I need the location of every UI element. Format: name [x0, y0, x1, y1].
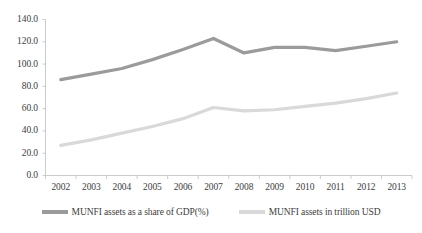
y-axis-tick-label: 0.0	[2, 170, 38, 180]
series-line-1	[61, 93, 397, 145]
y-axis-tick-label: 60.0	[2, 103, 38, 113]
legend-item[interactable]: MUNFI assets in trillion USD	[239, 207, 381, 218]
legend-swatch-icon	[239, 210, 265, 214]
legend-label: MUNFI assets as a share of GDP(%)	[72, 207, 209, 218]
legend-label: MUNFI assets in trillion USD	[269, 207, 381, 218]
y-axis-tick-label: 20.0	[2, 148, 38, 158]
y-axis-tick-label: 80.0	[2, 81, 38, 91]
y-axis-tick-label: 100.0	[2, 59, 38, 69]
chart-legend: MUNFI assets as a share of GDP(%)MUNFI a…	[0, 203, 422, 221]
y-axis-tick-label: 140.0	[2, 14, 38, 24]
legend-swatch-icon	[42, 210, 68, 214]
y-axis-tick-label: 40.0	[2, 125, 38, 135]
chart-plot-area	[0, 0, 422, 233]
y-axis-tick-label: 120.0	[2, 36, 38, 46]
line-chart: 140.0120.0100.080.060.040.020.00.0 20022…	[0, 0, 422, 233]
chart-series-layer	[61, 38, 397, 145]
series-line-0	[61, 38, 397, 79]
x-axis-tick-label: 2013	[379, 182, 415, 192]
legend-item[interactable]: MUNFI assets as a share of GDP(%)	[42, 207, 209, 218]
